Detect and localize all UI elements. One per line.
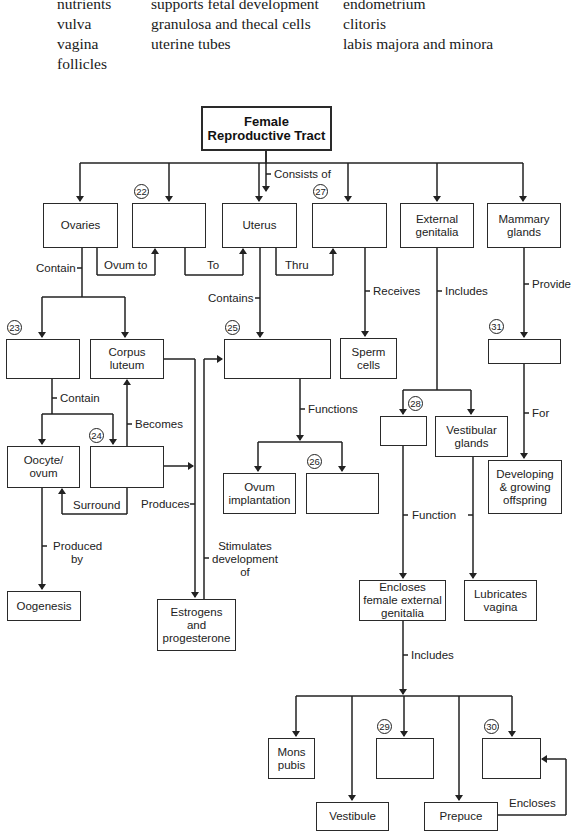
- link-label-surround: Surround: [73, 499, 120, 512]
- box-label: Vestibular glands: [442, 424, 501, 450]
- link-label-includes-bottom: Includes: [411, 649, 454, 662]
- uterus-box: Uterus: [222, 203, 297, 248]
- box-label: Sperm cells: [349, 346, 388, 372]
- prepuce-box: Prepuce: [424, 802, 498, 831]
- link-label-includes: Includes: [445, 285, 488, 298]
- link-label-thru: Thru: [285, 259, 309, 272]
- link-label-produced-by: Produced by: [53, 540, 101, 566]
- box-label: Developing & growing offspring: [495, 468, 555, 507]
- link-label-receives: Receives: [373, 285, 420, 298]
- link-label-contain-23: Contain: [60, 392, 100, 405]
- corpus-luteum-box: Corpus luteum: [90, 339, 164, 379]
- box-label: Lubricates vagina: [473, 588, 528, 614]
- link-label-encloses: Encloses: [509, 797, 556, 810]
- box-label: Mons pubis: [275, 746, 308, 772]
- ovum-implantation-box: Ovum implantation: [223, 473, 296, 514]
- link-label-function: Function: [412, 509, 456, 522]
- question-number-28: 28: [408, 396, 423, 411]
- box-label: Ovum implantation: [227, 481, 292, 507]
- box-label: Oocyte/ ovum: [20, 454, 67, 480]
- external-genitalia-box: External genitalia: [400, 203, 474, 248]
- link-label-ovum-to: Ovum to: [104, 259, 147, 272]
- answer-box-24[interactable]: [90, 446, 164, 488]
- box-label: Prepuce: [440, 810, 483, 823]
- answer-box-26[interactable]: [306, 473, 379, 514]
- ovaries-box: Ovaries: [43, 203, 118, 248]
- link-label-contain: Contain: [36, 262, 76, 275]
- box-label: External genitalia: [407, 213, 467, 239]
- link-label-to: To: [207, 259, 219, 272]
- diagram-title: Female Reproductive Tract: [203, 115, 330, 143]
- question-number-23: 23: [7, 320, 22, 335]
- link-label-consists-of: Consists of: [274, 168, 331, 181]
- developing-offspring-box: Developing & growing offspring: [488, 460, 562, 514]
- answer-box-28[interactable]: [380, 416, 427, 446]
- box-label: Uterus: [243, 219, 277, 232]
- question-number-24: 24: [89, 428, 104, 443]
- lubricates-vagina-box: Lubricates vagina: [464, 580, 537, 621]
- answer-box-29[interactable]: [376, 738, 434, 779]
- link-label-produces: Produces: [141, 498, 190, 511]
- answer-box-22[interactable]: [132, 203, 206, 248]
- oocyte-ovum-box: Oocyte/ ovum: [7, 446, 80, 488]
- link-label-stimulates-development-of: Stimulates development of: [212, 540, 278, 579]
- mons-pubis-box: Mons pubis: [268, 738, 315, 779]
- question-number-22: 22: [134, 184, 149, 199]
- vestibular-glands-box: Vestibular glands: [435, 416, 508, 457]
- answer-box-30[interactable]: [482, 738, 541, 779]
- answer-box-31[interactable]: [488, 339, 561, 364]
- answer-box-27[interactable]: [312, 203, 387, 248]
- box-label: Mammary glands: [494, 213, 554, 239]
- question-number-27: 27: [313, 184, 328, 199]
- box-label: Encloses female external genitalia: [363, 581, 442, 620]
- link-label-functions: Functions: [308, 403, 358, 416]
- oogenesis-box: Oogenesis: [7, 591, 81, 621]
- question-number-31: 31: [489, 319, 504, 334]
- estrogens-progesterone-box: Estrogens and progesterone: [157, 599, 236, 651]
- question-number-29: 29: [377, 719, 392, 734]
- box-label: Vestibule: [329, 810, 376, 823]
- link-label-for: For: [532, 407, 549, 420]
- link-label-provide: Provide: [532, 278, 571, 291]
- box-label: Oogenesis: [17, 600, 72, 613]
- title-box: Female Reproductive Tract: [201, 106, 332, 151]
- sperm-cells-box: Sperm cells: [340, 338, 397, 379]
- encloses-female-genitalia-box: Encloses female external genitalia: [359, 580, 446, 621]
- vestibule-box: Vestibule: [316, 802, 389, 831]
- question-number-26: 26: [307, 454, 322, 469]
- link-label-becomes: Becomes: [135, 418, 183, 431]
- question-number-30: 30: [484, 719, 499, 734]
- answer-box-25[interactable]: [224, 339, 331, 379]
- link-label-contains: Contains: [208, 292, 253, 305]
- answer-box-23[interactable]: [6, 339, 80, 379]
- box-label: Corpus luteum: [103, 346, 151, 372]
- box-label: Estrogens and progesterone: [162, 606, 231, 645]
- mammary-glands-box: Mammary glands: [487, 203, 561, 248]
- box-label: Ovaries: [61, 219, 101, 232]
- question-number-25: 25: [225, 320, 240, 335]
